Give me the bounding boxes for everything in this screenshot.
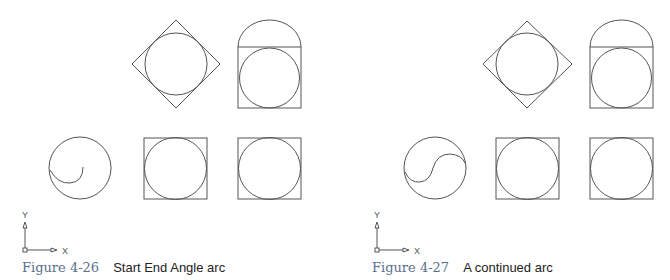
figure-number: Figure 4-26 bbox=[22, 260, 99, 275]
cad-drawing-canvas: Y X Y X bbox=[0, 0, 670, 280]
inscribed-circle bbox=[592, 48, 652, 108]
inscribed-circle bbox=[145, 33, 207, 95]
semicircle-arc bbox=[590, 20, 653, 47]
x-axis-label: X bbox=[62, 246, 68, 256]
y-axis-label: Y bbox=[374, 210, 380, 220]
inscribed-circle bbox=[497, 138, 559, 200]
figure-caption: Figure 4-26Start End Angle arc bbox=[22, 260, 225, 275]
figure-title: Start End Angle arc bbox=[113, 260, 225, 275]
figure-4-27-drawing bbox=[404, 20, 653, 200]
figure-title: A continued arc bbox=[463, 260, 553, 275]
inscribed-circle bbox=[496, 33, 558, 95]
x-axis-label: X bbox=[414, 246, 420, 256]
ucs-axis-icon bbox=[23, 222, 57, 252]
ucs-axis-icon bbox=[375, 222, 409, 252]
figure-caption: Figure 4-27A continued arc bbox=[372, 260, 553, 275]
outer-circle bbox=[49, 137, 111, 199]
figure-4-26-drawing bbox=[49, 20, 301, 200]
inscribed-circle bbox=[145, 138, 207, 200]
outer-circle bbox=[404, 137, 466, 199]
inscribed-circle bbox=[240, 48, 300, 108]
semicircle-arc bbox=[238, 20, 301, 47]
inscribed-circle bbox=[591, 138, 653, 200]
inscribed-circle bbox=[239, 138, 301, 200]
y-axis-label: Y bbox=[22, 210, 28, 220]
figure-number: Figure 4-27 bbox=[372, 260, 449, 275]
continued-arc bbox=[405, 154, 465, 182]
start-end-angle-arc bbox=[50, 167, 83, 183]
